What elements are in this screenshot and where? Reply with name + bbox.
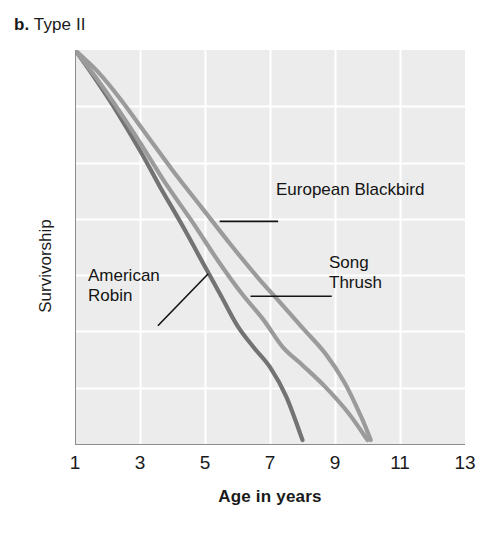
callout-label-american-robin: American Robin bbox=[88, 266, 160, 306]
callout-label-european-blackbird: European Blackbird bbox=[276, 180, 424, 200]
y-axis-title: Survivorship bbox=[34, 116, 58, 416]
x-tick-label-11: 11 bbox=[380, 450, 420, 476]
x-axis-title: Age in years bbox=[75, 487, 465, 507]
panel-caption: b. Type II bbox=[14, 14, 86, 36]
x-tick-label-5: 5 bbox=[185, 450, 225, 476]
y-axis-line bbox=[75, 50, 76, 444]
x-tick-label-9: 9 bbox=[315, 450, 355, 476]
panel-letter: b. bbox=[14, 15, 29, 34]
plot-area bbox=[75, 50, 465, 444]
series-curve-song-thrush bbox=[75, 50, 368, 440]
callout-leader-lines bbox=[158, 221, 332, 325]
panel-title: Type II bbox=[34, 15, 86, 34]
chart-canvas bbox=[75, 50, 465, 444]
callout-label-song-thrush: Song Thrush bbox=[329, 253, 382, 293]
figure-type-ii-survivorship: b. Type II Survivorship 135791113 Age in… bbox=[0, 0, 480, 534]
x-tick-label-3: 3 bbox=[120, 450, 160, 476]
x-axis-tick-labels: 135791113 bbox=[75, 450, 465, 478]
leader-line-american-robin bbox=[158, 274, 208, 326]
x-axis-line bbox=[75, 444, 465, 445]
x-tick-label-7: 7 bbox=[250, 450, 290, 476]
gridlines-vertical bbox=[141, 50, 401, 444]
series-curves bbox=[75, 50, 371, 440]
series-curve-american-robin bbox=[75, 50, 303, 440]
x-tick-label-1: 1 bbox=[55, 450, 95, 476]
x-tick-label-13: 13 bbox=[445, 450, 480, 476]
